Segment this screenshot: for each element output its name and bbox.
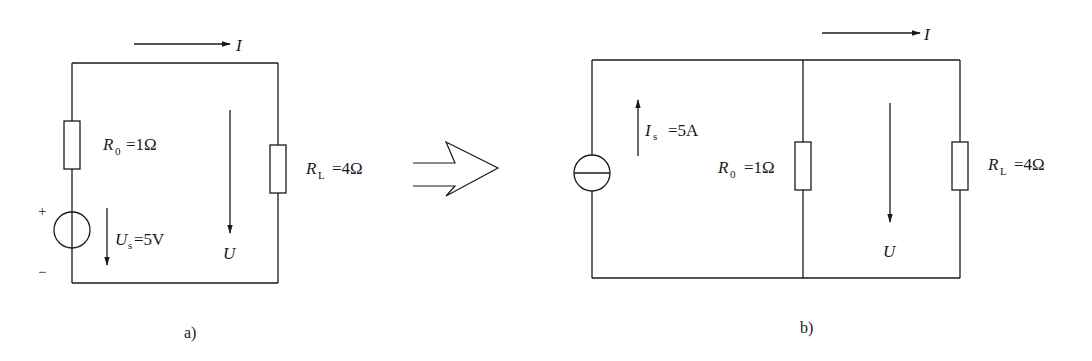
circuit-b-r0-label: R 0 =1Ω [717,158,775,180]
r0-symbol: R [717,158,729,177]
circuit-a-r0-resistor-icon [64,121,80,169]
circuit-a-current-label: I [235,36,243,55]
circuit-b-r0-resistor-icon [795,142,811,190]
r0-symbol: R [102,135,114,154]
circuit-a [54,44,286,283]
rl-subscript: L [1000,165,1007,177]
circuit-a-caption: a) [184,324,196,342]
circuit-b-caption: b) [800,319,813,337]
circuit-a-r0-label: R 0 =1Ω [102,135,157,157]
circuit-b [574,33,968,278]
r0-subscript: 0 [730,168,736,180]
circuit-diagram: I U + − U s =5V R 0 =1Ω R L =4Ω a) [0,0,1092,361]
rl-symbol: R [987,155,999,174]
rl-symbol: R [305,159,317,178]
source-symbol: U [115,230,129,249]
source-value: =5V [134,230,165,249]
circuit-b-source-label: I s =5A [644,121,699,142]
circuit-a-voltage-label: U [223,244,237,263]
voltage-source-plus: + [38,203,46,219]
r0-subscript: 0 [115,145,121,157]
hollow-right-arrow-icon [413,142,498,196]
r0-value: =1Ω [744,158,775,177]
source-subscript: s [128,239,132,251]
voltage-source-minus: − [38,264,46,280]
circuit-b-current-label: I [923,25,931,44]
circuit-a-source-label: U s =5V [115,230,165,251]
circuit-a-rl-label: R L =4Ω [305,159,363,181]
source-symbol: I [644,121,652,140]
circuit-a-rl-resistor-icon [270,145,286,193]
source-subscript: s [653,130,657,142]
source-value: =5A [668,121,699,140]
rl-subscript: L [318,169,325,181]
rl-value: =4Ω [1014,155,1045,174]
circuit-b-voltage-label: U [883,242,897,261]
circuit-b-rl-resistor-icon [952,142,968,190]
rl-value: =4Ω [332,159,363,178]
circuit-b-rl-label: R L =4Ω [987,155,1045,177]
r0-value: =1Ω [126,135,157,154]
